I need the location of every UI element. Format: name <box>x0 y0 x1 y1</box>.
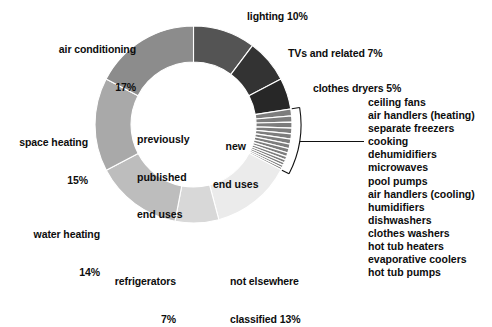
center-label-new-line1: new <box>213 140 259 153</box>
callout-nec-line1: not elsewhere <box>230 275 300 288</box>
callout-refrigerators: refrigerators 7% <box>92 250 176 327</box>
small-end-use-item: ceiling fans <box>368 96 475 109</box>
small-end-use-item: dishwashers <box>368 214 475 227</box>
callout-air-conditioning: air conditioning 17% <box>8 18 136 118</box>
callout-tvs-and-related: TVs and related 7% <box>288 47 382 60</box>
small-end-use-item: air handlers (cooling) <box>368 188 475 201</box>
small-end-use-item: evaporative coolers <box>368 253 475 266</box>
small-end-use-item: clothes washers <box>368 227 475 240</box>
callout-space-heating-name: space heating <box>0 136 88 149</box>
center-label-prev-line1: previously <box>137 133 190 146</box>
center-label-prev-line2: published <box>137 171 190 184</box>
small-end-use-item: microwaves <box>368 161 475 174</box>
callout-water-heating: water heating 14% <box>8 203 100 303</box>
callout-air-conditioning-value: 17% <box>8 81 136 94</box>
bracket-end-tick <box>292 107 300 108</box>
center-label-new-line2: end uses <box>213 178 259 191</box>
small-end-uses-list: ceiling fansair handlers (heating)separa… <box>368 96 475 279</box>
small-end-use-item: air handlers (heating) <box>368 109 475 122</box>
callout-nec-line2: classified 13% <box>230 313 300 326</box>
bracket-end-tick <box>282 170 289 174</box>
callout-space-heating-value: 15% <box>0 174 88 187</box>
small-end-use-item: humidifiers <box>368 201 475 214</box>
small-end-use-item: dehumidifiers <box>368 148 475 161</box>
callout-refrigerators-name: refrigerators <box>92 275 176 288</box>
callout-refrigerators-value: 7% <box>92 313 176 326</box>
callout-air-conditioning-name: air conditioning <box>8 43 136 56</box>
small-end-use-item: separate freezers <box>368 122 475 135</box>
callout-clothes-dryers: clothes dryers 5% <box>313 82 401 95</box>
center-label-new-end-uses: new end uses <box>213 115 259 215</box>
small-uses-bracket-group <box>282 107 364 173</box>
small-end-use-item: cooking <box>368 135 475 148</box>
callout-water-heating-name: water heating <box>8 228 100 241</box>
callout-lighting: lighting 10% <box>247 10 308 23</box>
callout-water-heating-value: 14% <box>8 266 100 279</box>
callout-space-heating: space heating 15% <box>0 111 88 211</box>
callout-not-elsewhere-classified: not elsewhere classified 13% <box>230 250 300 327</box>
center-label-previously-published: previously published end uses <box>137 108 190 246</box>
center-label-prev-line3: end uses <box>137 208 190 221</box>
small-end-use-item: pool pumps <box>368 175 475 188</box>
small-end-use-item: hot tub heaters <box>368 240 475 253</box>
small-end-use-item: hot tub pumps <box>368 266 475 279</box>
